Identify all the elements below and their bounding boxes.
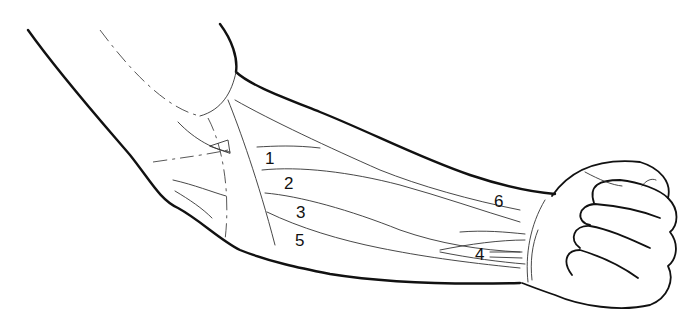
biceps-outline <box>220 24 555 194</box>
wrist-line <box>527 200 545 282</box>
forearm-illustration <box>0 0 691 324</box>
dashed-line-vertical <box>208 118 227 240</box>
aponeurosis-line <box>178 122 230 152</box>
label-3: 3 <box>296 204 305 221</box>
label-1: 1 <box>265 150 274 167</box>
label-5: 5 <box>295 232 304 249</box>
label-2: 2 <box>284 175 293 192</box>
finger-4 <box>566 250 638 278</box>
finger-2 <box>580 204 660 225</box>
finger-1 <box>592 180 668 203</box>
biceps-lower-curve <box>200 72 236 116</box>
label-6: 6 <box>494 193 503 210</box>
dashed-line-horizontal <box>153 150 228 162</box>
label-4: 4 <box>475 246 484 263</box>
finger-3 <box>574 226 650 248</box>
humerus-dashed-line <box>100 30 200 116</box>
muscle-border <box>228 100 275 245</box>
thumb-crease <box>585 172 622 186</box>
